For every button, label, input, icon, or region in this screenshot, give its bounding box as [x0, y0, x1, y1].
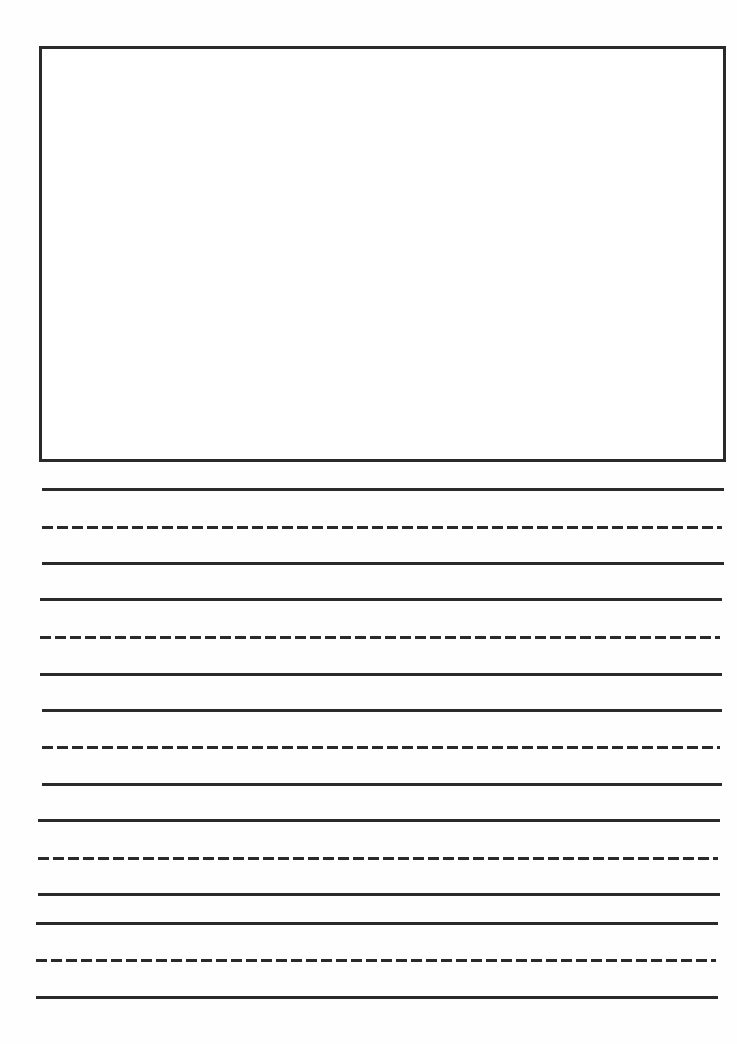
dashed-midline	[36, 959, 716, 962]
solid-writing-line	[42, 709, 722, 712]
solid-writing-line	[40, 673, 722, 676]
dashed-midline	[40, 636, 720, 639]
solid-writing-line	[36, 996, 718, 999]
solid-writing-line	[42, 488, 724, 491]
dashed-midline	[42, 746, 720, 749]
solid-writing-line	[36, 922, 718, 925]
drawing-box	[39, 46, 726, 462]
solid-writing-line	[42, 783, 722, 786]
solid-writing-line	[38, 893, 720, 896]
solid-writing-line	[42, 562, 724, 565]
solid-writing-line	[38, 819, 720, 822]
solid-writing-line	[40, 598, 722, 601]
writing-paper-page	[0, 0, 737, 1044]
dashed-midline	[42, 526, 722, 529]
dashed-midline	[38, 857, 718, 860]
